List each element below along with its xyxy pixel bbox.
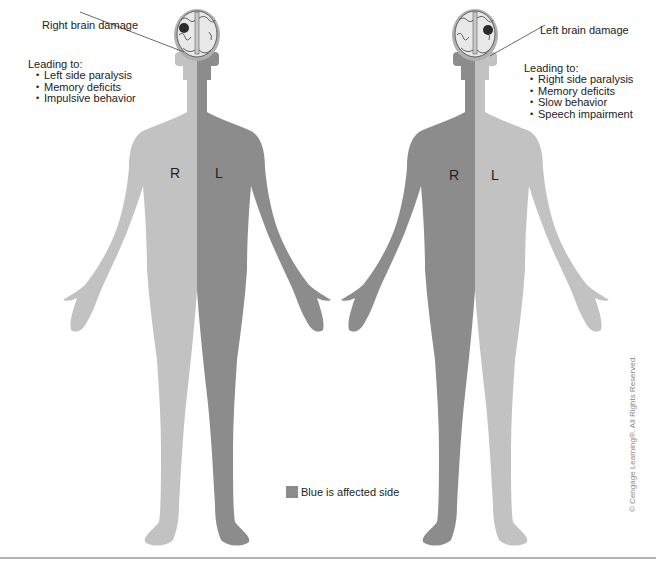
- callout-line-right: [490, 25, 545, 56]
- right-figure-r-label: R: [449, 167, 459, 183]
- legend: Blue is affected side: [286, 482, 399, 500]
- legend-label: Blue is affected side: [301, 486, 399, 498]
- effect-item: Slow behavior: [530, 97, 633, 109]
- lesion-marker: [483, 25, 493, 35]
- right-figure-l-label: L: [491, 167, 499, 183]
- lesion-marker: [179, 23, 189, 33]
- callout-line-left: [80, 12, 184, 52]
- effect-item: Impulsive behavior: [36, 93, 136, 105]
- left-callout-label: Right brain damage: [42, 19, 138, 31]
- brain-icon: [174, 9, 220, 61]
- right-effects-block: Leading to: Right side paralysis Memory …: [524, 62, 633, 120]
- left-figure-l-label: L: [215, 165, 223, 181]
- square-swatch-icon: [286, 486, 298, 498]
- left-effects-block: Leading to: Left side paralysis Memory d…: [28, 58, 136, 105]
- effect-item: Speech impairment: [530, 109, 633, 121]
- brain-icon: [452, 9, 498, 61]
- copyright-notice: © Cengage Learning®. All Rights Reserved…: [628, 356, 637, 512]
- left-figure-r-label: R: [170, 165, 180, 181]
- effect-item: Left side paralysis: [36, 70, 136, 82]
- effect-item: Right side paralysis: [530, 74, 633, 86]
- left-effects-list: Left side paralysis Memory deficits Impu…: [36, 70, 136, 105]
- right-callout-label: Left brain damage: [540, 24, 629, 36]
- right-effects-list: Right side paralysis Memory deficits Slo…: [530, 74, 633, 120]
